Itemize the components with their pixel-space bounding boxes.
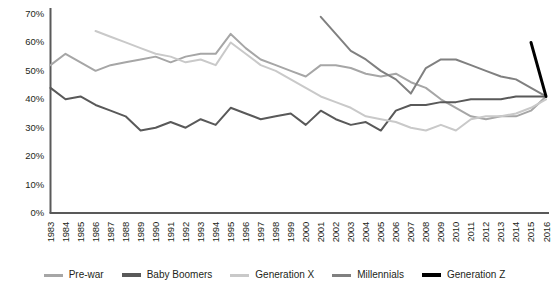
x-tick-label: 1985 bbox=[76, 222, 86, 262]
x-tick-label: 1995 bbox=[226, 222, 236, 262]
x-tick-label: 1999 bbox=[286, 222, 296, 262]
x-tick-label: 1993 bbox=[196, 222, 206, 262]
y-axis-labels: 0%10%20%30%40%50%60%70% bbox=[0, 0, 44, 225]
x-tick-label: 2011 bbox=[466, 222, 476, 262]
x-tick-label: 2015 bbox=[526, 222, 536, 262]
series-line-generation-x bbox=[96, 31, 546, 131]
y-tick-label: 30% bbox=[2, 123, 44, 133]
legend-item-baby-boomers[interactable]: Baby Boomers bbox=[122, 269, 213, 281]
y-tick-label: 0% bbox=[2, 208, 44, 218]
x-tick-label: 1988 bbox=[121, 222, 131, 262]
y-tick-label: 60% bbox=[2, 37, 44, 47]
legend-label: Generation Z bbox=[447, 269, 505, 281]
legend-swatch-icon bbox=[44, 274, 63, 277]
series-line-millennials bbox=[321, 17, 546, 97]
legend-label: Millennials bbox=[357, 269, 404, 281]
legend-item-generation-x[interactable]: Generation X bbox=[230, 269, 314, 281]
series-line-baby-boomers bbox=[51, 88, 547, 131]
x-tick-label: 2002 bbox=[331, 222, 341, 262]
legend-swatch-icon bbox=[332, 274, 351, 277]
x-tick-label: 1992 bbox=[181, 222, 191, 262]
y-tick-label: 70% bbox=[2, 9, 44, 19]
x-tick-label: 2000 bbox=[301, 222, 311, 262]
x-tick-label: 1986 bbox=[91, 222, 101, 262]
x-tick-label: 2014 bbox=[511, 222, 521, 262]
legend-item-generation-z[interactable]: Generation Z bbox=[422, 269, 505, 281]
legend-swatch-icon bbox=[122, 273, 141, 277]
legend-swatch-icon bbox=[230, 274, 249, 277]
chart-legend: Pre-warBaby BoomersGeneration XMillennia… bbox=[0, 264, 549, 286]
legend-item-millennials[interactable]: Millennials bbox=[332, 269, 404, 281]
x-axis-labels: 1983198419851986198719881989199019911992… bbox=[0, 222, 549, 262]
x-tick-label: 1994 bbox=[211, 222, 221, 262]
x-tick-label: 1987 bbox=[106, 222, 116, 262]
x-tick-label: 2001 bbox=[316, 222, 326, 262]
x-tick-label: 2007 bbox=[406, 222, 416, 262]
x-tick-label: 2013 bbox=[496, 222, 506, 262]
x-tick-label: 2003 bbox=[346, 222, 356, 262]
x-tick-label: 1990 bbox=[151, 222, 161, 262]
x-tick-label: 2005 bbox=[376, 222, 386, 262]
x-tick-label: 2010 bbox=[451, 222, 461, 262]
x-tick-label: 2008 bbox=[421, 222, 431, 262]
x-tick-label: 1998 bbox=[271, 222, 281, 262]
x-tick-label: 2006 bbox=[391, 222, 401, 262]
y-tick-label: 20% bbox=[2, 151, 44, 161]
x-tick-label: 1996 bbox=[241, 222, 251, 262]
x-tick-label: 2012 bbox=[481, 222, 491, 262]
series-line-pre-war bbox=[51, 34, 547, 119]
x-tick-label: 2009 bbox=[436, 222, 446, 262]
legend-label: Baby Boomers bbox=[147, 269, 213, 281]
y-tick-label: 50% bbox=[2, 66, 44, 76]
x-tick-label: 1991 bbox=[166, 222, 176, 262]
x-tick-label: 1983 bbox=[46, 222, 56, 262]
legend-label: Pre-war bbox=[69, 269, 104, 281]
x-tick-label: 1997 bbox=[256, 222, 266, 262]
plot-area bbox=[0, 0, 549, 225]
plot-svg bbox=[0, 0, 549, 225]
x-tick-label: 2004 bbox=[361, 222, 371, 262]
x-tick-label: 1989 bbox=[136, 222, 146, 262]
legend-swatch-icon bbox=[422, 273, 441, 277]
x-tick-label: 1984 bbox=[61, 222, 71, 262]
legend-item-pre-war[interactable]: Pre-war bbox=[44, 269, 104, 281]
y-tick-label: 40% bbox=[2, 94, 44, 104]
y-tick-label: 10% bbox=[2, 180, 44, 190]
x-tick-label: 2016 bbox=[542, 222, 552, 262]
legend-label: Generation X bbox=[255, 269, 314, 281]
